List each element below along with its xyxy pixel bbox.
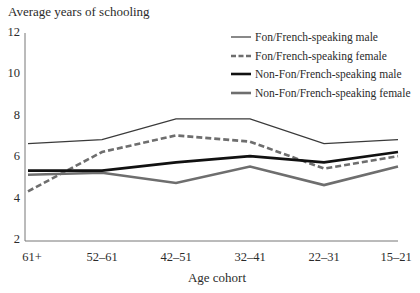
x-tick-label: 22–31 xyxy=(308,250,339,265)
x-tick-label: 15–21 xyxy=(380,250,411,265)
x-axis-title: Age cohort xyxy=(0,270,420,286)
legend-item: Fon/French-speaking male xyxy=(231,28,411,47)
legend-label: Non-Fon/French-speaking male xyxy=(255,65,402,84)
y-tick-label: 4 xyxy=(0,191,20,206)
series-line xyxy=(28,166,398,185)
legend-item: Fon/French-speaking female xyxy=(231,47,411,66)
thin-solid-line-icon xyxy=(231,32,251,42)
dashed-line-icon xyxy=(231,51,251,61)
y-tick-label: 6 xyxy=(0,149,20,164)
legend-label: Fon/French-speaking male xyxy=(255,28,378,47)
y-tick-label: 8 xyxy=(0,108,20,123)
x-tick-label: 32–41 xyxy=(234,250,265,265)
legend-item: Non-Fon/French-speaking female xyxy=(231,84,411,103)
series-line xyxy=(28,135,398,191)
legend: Fon/French-speaking male Fon/French-spea… xyxy=(231,28,411,102)
y-axis-title: Average years of schooling xyxy=(8,4,150,20)
legend-label: Fon/French-speaking female xyxy=(255,47,387,66)
x-tick-label: 52–61 xyxy=(86,250,117,265)
y-tick-label: 2 xyxy=(0,232,20,247)
thick-solid-line-icon xyxy=(231,69,251,79)
gray-solid-line-icon xyxy=(231,88,251,98)
x-tick-label: 42–51 xyxy=(160,250,191,265)
x-tick-label: 61+ xyxy=(22,250,42,265)
series-layer xyxy=(28,119,398,191)
y-tick-label: 12 xyxy=(0,25,20,40)
legend-item: Non-Fon/French-speaking male xyxy=(231,65,411,84)
y-tick-label: 10 xyxy=(0,66,20,81)
legend-label: Non-Fon/French-speaking female xyxy=(255,84,411,103)
series-line xyxy=(28,119,398,144)
